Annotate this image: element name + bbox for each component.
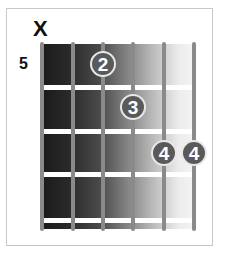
finger-marker-string-4: 3 — [120, 94, 146, 120]
string-5 — [162, 42, 166, 231]
fret-3 — [44, 172, 194, 177]
string-2 — [71, 42, 75, 231]
string-4 — [131, 42, 135, 231]
finger-marker-string-5: 4 — [151, 140, 177, 166]
string-1 — [40, 42, 44, 231]
string-6 — [192, 42, 196, 231]
fret-1 — [44, 85, 194, 90]
muted-string-marker: X — [33, 18, 48, 40]
start-fret-label: 5 — [19, 56, 28, 72]
fret-4 — [44, 218, 194, 223]
fretboard — [42, 44, 194, 229]
fret-2 — [44, 129, 194, 134]
finger-marker-string-3: 2 — [90, 51, 116, 77]
finger-marker-string-6: 4 — [181, 140, 207, 166]
